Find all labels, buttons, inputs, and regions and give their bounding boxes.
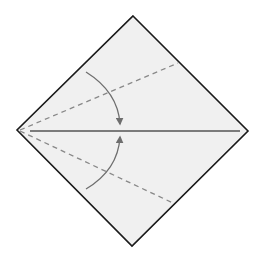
origami-kite-fold-diagram <box>0 0 266 261</box>
